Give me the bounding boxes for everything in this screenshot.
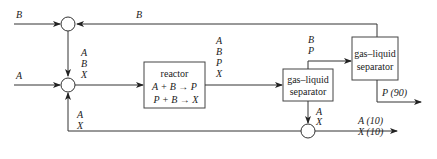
reactor-out-label-x: X bbox=[215, 68, 223, 79]
separator2-line2: separator bbox=[357, 61, 394, 72]
recycle-label-a: A bbox=[76, 109, 84, 120]
top-mixer bbox=[61, 17, 75, 31]
middle-mixer bbox=[61, 78, 75, 92]
reactor-title: reactor bbox=[161, 68, 189, 79]
feed-a-label: A bbox=[15, 70, 23, 81]
mixer-out-label-x: X bbox=[80, 69, 88, 80]
mixer-out-label-a: A bbox=[80, 47, 88, 58]
feed-b-label: B bbox=[16, 9, 22, 20]
recycle-b-stream bbox=[77, 24, 377, 37]
recycle-b-label: B bbox=[136, 9, 142, 20]
reactor-reaction-1: A + B → P bbox=[151, 81, 197, 92]
product-label: P (90) bbox=[381, 87, 408, 99]
sep1-gas-label-p: P bbox=[307, 45, 314, 56]
separator1-line2: separator bbox=[290, 86, 327, 97]
recycle-label-x: X bbox=[76, 120, 84, 131]
reactor-out-label-b: B bbox=[216, 46, 222, 57]
reactor-out-label-p: P bbox=[215, 57, 222, 68]
purge-label-x: X (10) bbox=[357, 126, 384, 138]
reactor-reaction-2: P + B → X bbox=[153, 94, 200, 105]
process-flow-diagram: B B A A B X A X A B P X B P A X P (90) A… bbox=[0, 0, 437, 159]
splitter bbox=[301, 124, 315, 138]
sep1-gas-stream bbox=[308, 61, 351, 69]
separator2-line1: gas–liquid bbox=[354, 48, 396, 59]
separator1-line1: gas–liquid bbox=[287, 74, 329, 85]
sep1-liquid-label-x: X bbox=[315, 116, 323, 127]
sep1-gas-label-b: B bbox=[308, 34, 314, 45]
reactor-out-label-a: A bbox=[215, 35, 223, 46]
mixer-out-label-b: B bbox=[81, 58, 87, 69]
